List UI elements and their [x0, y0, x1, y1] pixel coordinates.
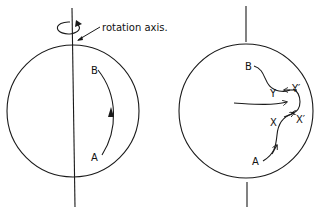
- rotation-axis-label: rotation axis.: [102, 22, 168, 33]
- left-label-b: B: [91, 65, 98, 76]
- right-sphere-panel: B Y′ Y X X′ A: [179, 6, 313, 207]
- right-label-y: Y: [269, 88, 277, 99]
- right-label-a: A: [252, 156, 259, 167]
- rotation-arrow-icon: [57, 20, 82, 34]
- path-x-arrow-icon: [284, 113, 294, 117]
- path-a-arrow-icon: [272, 145, 277, 154]
- path-incoming: [234, 102, 287, 104]
- right-label-y-prime: Y′: [291, 83, 301, 94]
- right-label-x: X: [270, 117, 277, 128]
- rotation-diagram: rotation axis. B A B Y′ Y X X′ A: [0, 0, 315, 214]
- left-sphere-panel: rotation axis. B A: [7, 8, 168, 207]
- right-label-b: B: [245, 61, 252, 72]
- left-label-a: A: [91, 152, 98, 163]
- right-label-x-prime: X′: [296, 114, 306, 125]
- path-a-to-x: [263, 114, 292, 161]
